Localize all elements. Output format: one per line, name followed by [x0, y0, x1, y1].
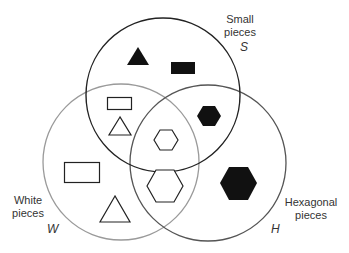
set-letter-w: W: [47, 222, 58, 236]
large-white-triangle-icon: [100, 196, 130, 222]
small-white-rectangle-icon: [108, 98, 132, 110]
small-black-hexagon-icon: [197, 106, 221, 126]
small-white-triangle-icon: [109, 117, 131, 135]
label-white-pieces: White pieces: [6, 194, 50, 220]
large-black-hexagon-icon: [220, 167, 257, 200]
large-white-hexagon-icon: [147, 170, 183, 202]
label-white-line2: pieces: [6, 207, 50, 220]
label-hexagonal-pieces: Hexagonal pieces: [280, 196, 342, 222]
label-white-line1: White: [6, 194, 50, 207]
label-small-line2: pieces: [218, 26, 262, 39]
label-hexagonal-line2: pieces: [280, 209, 342, 222]
set-letter-s: S: [240, 40, 248, 54]
small-black-rectangle-icon: [171, 62, 195, 74]
small-black-triangle-icon: [127, 47, 149, 65]
label-hexagonal-line1: Hexagonal: [280, 196, 342, 209]
label-small-line1: Small: [218, 13, 262, 26]
small-white-hexagon-icon: [154, 130, 178, 150]
large-white-rectangle-icon: [65, 163, 100, 183]
label-small-pieces: Small pieces: [218, 13, 262, 39]
set-letter-h: H: [271, 222, 280, 236]
